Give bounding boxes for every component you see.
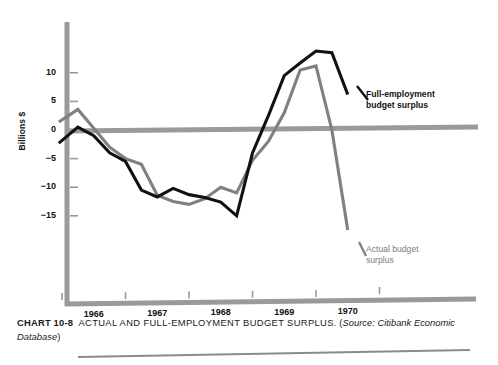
y-tick-label: 10: [22, 67, 56, 77]
y-tick-label: 5: [22, 95, 56, 105]
series-full-employment-budget-surplus: [59, 51, 348, 216]
chart-figure: Billions $ 1050−5−10−15 1966196719681969…: [0, 0, 498, 365]
x-tick-label: 1970: [323, 306, 373, 316]
x-axis-spine: [65, 299, 476, 304]
chart-caption: CHART 10-8 ACTUAL AND FULL-EMPLOYMENT BU…: [17, 316, 479, 343]
series-actual-budget-surplus: [59, 66, 348, 230]
page-rule: [78, 350, 470, 357]
y-axis-ticks: [70, 73, 78, 216]
caption-number: CHART 10-8: [17, 317, 73, 328]
caption-source-close: ): [57, 331, 60, 342]
annotation-full-employment: Full-employment budget surplus: [366, 89, 435, 110]
y-tick-label: −5: [22, 153, 56, 163]
y-tick-label: 0: [22, 124, 56, 134]
x-axis-ticks: [62, 287, 380, 300]
annotation-actual-line2: surplus: [366, 255, 394, 265]
y-tick-label: −15: [22, 210, 56, 220]
annotation-actual-line1: Actual budget: [366, 244, 419, 254]
annotation-full-employment-line2: budget surplus: [366, 100, 428, 110]
zero-reference-line: [67, 127, 478, 131]
caption-source-prefix: Source:: [342, 317, 374, 328]
caption-title: ACTUAL AND FULL-EMPLOYMENT BUDGET SURPLU…: [78, 317, 336, 328]
annotation-actual: Actual budget surplus: [366, 244, 419, 265]
y-tick-label: −10: [22, 181, 56, 191]
annotation-full-employment-line1: Full-employment: [366, 89, 435, 99]
leader-line-actual: [359, 242, 366, 256]
